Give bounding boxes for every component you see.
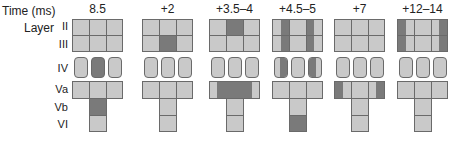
cell-vb: [226, 98, 244, 116]
cell-vb-active: [89, 98, 107, 116]
cell-va: [72, 81, 90, 99]
cell-va: [142, 81, 160, 99]
cell-va: [289, 81, 307, 99]
cell-iii: [142, 35, 160, 52]
cell-va: [306, 81, 323, 99]
cell-ii: [351, 19, 369, 36]
panel-plus-2: +2: [142, 0, 193, 141]
cell-va-edges-active: [334, 81, 385, 99]
row-label-iii: III: [59, 38, 68, 50]
cell-iv-active: [91, 57, 105, 78]
cell-ii: [159, 19, 177, 36]
row-labels: II III IV Va Vb VI: [0, 0, 68, 141]
cell-iv: [353, 57, 367, 78]
cell-iii: [176, 35, 193, 52]
cell-vb: [414, 98, 432, 116]
cell-vb: [351, 98, 369, 116]
panel-time: +12–14: [377, 2, 463, 16]
cell-ii: [209, 19, 227, 36]
activation-band: [217, 82, 252, 98]
cell-iv: [178, 57, 192, 78]
cell-vi: [351, 115, 369, 132]
cell-iv: [211, 57, 225, 78]
cell-va: [106, 81, 123, 99]
cell-iv: [291, 57, 305, 78]
row-label-vi: VI: [58, 118, 68, 130]
cell-vi: [159, 115, 177, 132]
cell-vi-active: [289, 115, 307, 132]
row-label-va: Va: [55, 83, 68, 95]
cell-iv: [416, 57, 430, 78]
cell-va: [414, 81, 432, 99]
cell-iii: [334, 35, 352, 52]
cell-va: [272, 81, 290, 99]
cell-vi: [89, 115, 107, 132]
cell-iii: [368, 35, 385, 52]
cell-ii: [72, 19, 90, 36]
panel-plus-3.5-4: +3.5–4: [209, 0, 260, 141]
panel-plus-12-14: +12–14: [397, 0, 448, 141]
cell-va: [89, 81, 107, 99]
row-label-iv: IV: [58, 62, 68, 74]
cell-va: [159, 81, 177, 99]
cell-iii: [106, 35, 123, 52]
panel-8.5: 8.5: [72, 0, 123, 141]
cell-iv: [399, 57, 413, 78]
cell-va: [176, 81, 193, 99]
cell-iv-partial: [308, 57, 322, 78]
cell-va: [397, 81, 415, 99]
panel-plus-4.5-5: +4.5–5: [272, 0, 323, 141]
cell-iii: [209, 35, 227, 52]
cell-iv: [144, 57, 158, 78]
cell-ii-active: [226, 19, 244, 36]
row-label-ii: II: [62, 20, 68, 32]
cell-iii: [72, 35, 90, 52]
panel-plus-7: +7: [334, 0, 385, 141]
cell-iii: [89, 35, 107, 52]
cell-iv: [370, 57, 384, 78]
cell-ii: [106, 19, 123, 36]
cell-vi: [226, 115, 244, 132]
cell-iii: [226, 35, 244, 52]
cell-ii: [142, 19, 160, 36]
cell-iv-partial: [274, 57, 288, 78]
cell-iv: [245, 57, 259, 78]
cell-iii: [243, 35, 260, 52]
cell-ii: [176, 19, 193, 36]
cell-iii-active: [159, 35, 177, 52]
cell-va-partial-active: [209, 81, 260, 99]
cell-ii: [89, 19, 107, 36]
cell-iii: [351, 35, 369, 52]
cells-ii-iii-edges-active: [397, 19, 448, 52]
cell-iv: [336, 57, 350, 78]
cell-iv: [228, 57, 242, 78]
cell-iv: [108, 57, 122, 78]
cell-va: [431, 81, 448, 99]
row-label-vb: Vb: [55, 101, 68, 113]
cell-ii: [334, 19, 352, 36]
cells-ii-iii: [272, 19, 323, 52]
cell-iv: [161, 57, 175, 78]
cell-vb: [289, 98, 307, 116]
cell-vi: [414, 115, 432, 132]
cell-iv: [74, 57, 88, 78]
cell-vb: [159, 98, 177, 116]
cell-ii: [368, 19, 385, 36]
cell-ii: [243, 19, 260, 36]
cell-iv: [433, 57, 447, 78]
